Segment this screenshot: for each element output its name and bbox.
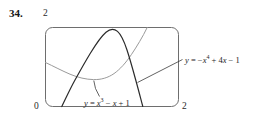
leader-line-quartic — [138, 60, 183, 83]
figure-root: 34. 2 0 2 y = −x4 + 4x − 1 y = x3 − x + … — [0, 0, 260, 124]
plot-frame — [46, 28, 179, 107]
equation-label-cubic: y = x3 − x + 1 — [84, 99, 130, 108]
equation-label-quartic: y = −x4 + 4x − 1 — [185, 56, 240, 65]
leader-line-cubic — [94, 81, 100, 97]
curve-quartic — [62, 29, 143, 106]
curve-cubic — [46, 28, 148, 80]
